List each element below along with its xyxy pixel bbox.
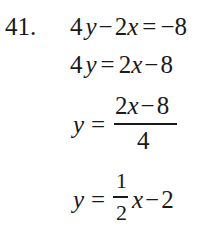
fraction-numerator: 2x−8 <box>115 93 169 118</box>
equation-line-2: 4y=2x−8 <box>70 52 173 77</box>
equation-line-1: 4y−2x=−8 <box>70 14 187 39</box>
fraction-denominator: 4 <box>137 128 150 153</box>
fraction-den: 2 <box>116 202 127 224</box>
fraction-num: 1 <box>116 170 127 192</box>
fraction-bar <box>114 123 177 125</box>
problem-number: 41. <box>5 14 36 39</box>
fraction-bar <box>113 196 128 198</box>
